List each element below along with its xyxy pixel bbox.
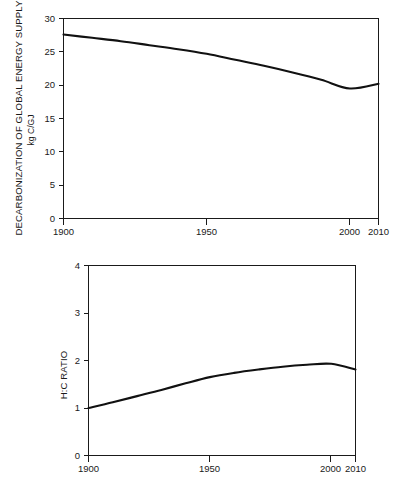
x-tick-label: 1900 (78, 463, 99, 474)
y-axis-tick-labels: 4 3 2 1 0 (75, 260, 80, 461)
x-tick-label: 2010 (345, 463, 366, 474)
x-tick-label: 2000 (320, 463, 341, 474)
plot-frame (64, 19, 379, 219)
y-tick-label: 4 (75, 260, 80, 271)
y-tick-label: 0 (75, 450, 80, 461)
chart-panel-decarbonization: 30 25 20 15 10 5 0 1900 1950 2000 2010 (0, 0, 395, 250)
y-tick-label: 30 (44, 13, 55, 24)
y-tick-label: 10 (44, 146, 55, 157)
y-axis-tick-labels: 30 25 20 15 10 5 0 (44, 13, 55, 224)
y-axis-title: H:C RATIO (58, 351, 69, 400)
x-axis-ticks (64, 219, 379, 225)
y-tick-label: 2 (75, 355, 80, 366)
y-tick-label: 0 (50, 213, 55, 224)
plot-frame (89, 266, 356, 456)
x-tick-label: 1950 (196, 226, 217, 237)
x-tick-label: 2010 (368, 226, 389, 237)
y-axis-title-group: H:C RATIO (58, 351, 69, 400)
x-axis-tick-labels: 1900 1950 2000 2010 (78, 463, 366, 474)
y-tick-label: 25 (44, 46, 55, 57)
figure-two-panel-line-charts: 30 25 20 15 10 5 0 1900 1950 2000 2010 (0, 0, 395, 495)
x-tick-label: 1950 (199, 463, 220, 474)
y-tick-label: 5 (50, 179, 55, 190)
y-axis-title-group: DECARBONIZATION OF GLOBAL ENERGY SUPPLY … (13, 0, 36, 235)
y-tick-label: 15 (44, 113, 55, 124)
y-axis-units: kg C/GJ (26, 114, 36, 145)
y-tick-label: 20 (44, 79, 55, 90)
y-axis-title: DECARBONIZATION OF GLOBAL ENERGY SUPPLY (13, 0, 24, 235)
decarbonization-plot: 30 25 20 15 10 5 0 1900 1950 2000 2010 (0, 0, 395, 250)
hc-ratio-plot: 4 3 2 1 0 1900 1950 2000 2010 (0, 250, 395, 495)
data-line-decarbonization (64, 35, 379, 89)
series-group (64, 35, 379, 89)
series-group (89, 364, 356, 408)
x-axis-ticks (89, 456, 356, 462)
chart-panel-hc-ratio: 4 3 2 1 0 1900 1950 2000 2010 (0, 250, 395, 495)
y-tick-label: 3 (75, 307, 80, 318)
x-axis-tick-labels: 1900 1950 2000 2010 (53, 226, 389, 237)
x-tick-label: 1900 (53, 226, 74, 237)
data-line-hc-ratio (89, 364, 356, 408)
x-tick-label: 2000 (339, 226, 360, 237)
y-axis-ticks (59, 19, 64, 219)
y-axis-ticks (84, 266, 89, 456)
y-tick-label: 1 (75, 402, 80, 413)
